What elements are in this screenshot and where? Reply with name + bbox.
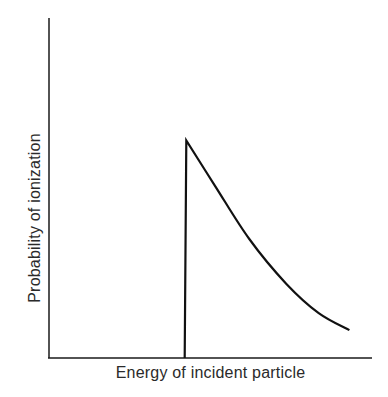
chart-canvas [0,0,388,397]
x-axis-label: Energy of incident particle [49,364,372,382]
y-axis-label: Probability of ionization [26,133,44,303]
ionization-curve [185,140,350,358]
